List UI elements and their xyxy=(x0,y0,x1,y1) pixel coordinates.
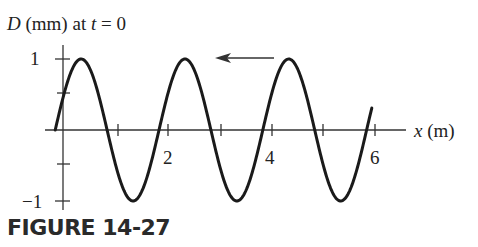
y-axis-title: D (mm) at t = 0 xyxy=(6,13,126,35)
figure-caption: FIGURE 14-27 xyxy=(7,215,170,240)
y-tick-label-neg1: −1 xyxy=(22,191,42,212)
y-tick-label-1: 1 xyxy=(30,48,40,69)
x-tick-label-6: 6 xyxy=(370,147,380,168)
wave-figure: D (mm) at t = 0 1 −1 2 4 6 x (m) FIGURE … xyxy=(0,0,478,247)
x-axis-title: x (m) xyxy=(413,120,455,142)
x-tick-label-2: 2 xyxy=(163,147,173,168)
x-tick-label-4: 4 xyxy=(265,147,275,168)
wave-chart: D (mm) at t = 0 1 −1 2 4 6 x (m) xyxy=(0,0,478,247)
